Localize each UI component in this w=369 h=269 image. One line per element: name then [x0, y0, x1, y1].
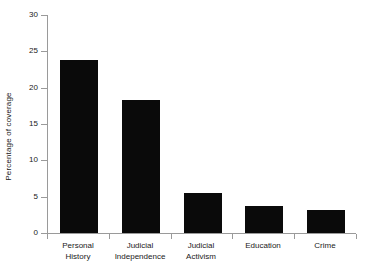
- y-tick-label-15: 15: [14, 120, 38, 128]
- bar-personal-history: [60, 60, 98, 233]
- x-tick-0: [47, 234, 48, 239]
- x-tick-5: [356, 234, 357, 239]
- x-category-label-line1: Crime: [282, 241, 368, 252]
- x-category-label-crime: Crime: [282, 241, 368, 252]
- y-tick-label-25: 25: [14, 47, 38, 55]
- bar-chart: Percentage of coverage 0 5 10 15 20 25 3…: [0, 0, 369, 269]
- bar-crime: [307, 210, 345, 233]
- bar-education: [245, 206, 283, 233]
- x-category-label-line2: Activism: [158, 252, 244, 263]
- x-tick-1: [109, 234, 110, 239]
- y-tick-label-0: 0: [14, 229, 38, 237]
- x-axis-line: [47, 233, 356, 234]
- bar-judicial-independence: [122, 100, 160, 233]
- plot-area: [47, 15, 356, 233]
- y-tick-label-20: 20: [14, 84, 38, 92]
- y-tick-label-30: 30: [14, 11, 38, 19]
- x-tick-2: [171, 234, 172, 239]
- x-tick-4: [294, 234, 295, 239]
- y-tick-label-10: 10: [14, 156, 38, 164]
- y-axis-title-label: Percentage of coverage: [4, 92, 13, 180]
- x-tick-3: [232, 234, 233, 239]
- bar-judicial-activism: [184, 193, 222, 233]
- y-tick-label-5: 5: [14, 193, 38, 201]
